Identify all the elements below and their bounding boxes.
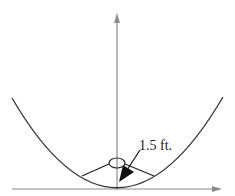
- focus-rays: [82, 164, 154, 176]
- y-axis-arrowhead-icon: [114, 13, 120, 23]
- parabola-diagram: 1.5 ft.: [0, 0, 235, 196]
- focus-distance-label: 1.5 ft.: [139, 138, 172, 153]
- y-axis: [114, 13, 120, 189]
- x-axis-arrowhead-icon: [212, 186, 222, 192]
- dimension-arrow: [119, 150, 140, 182]
